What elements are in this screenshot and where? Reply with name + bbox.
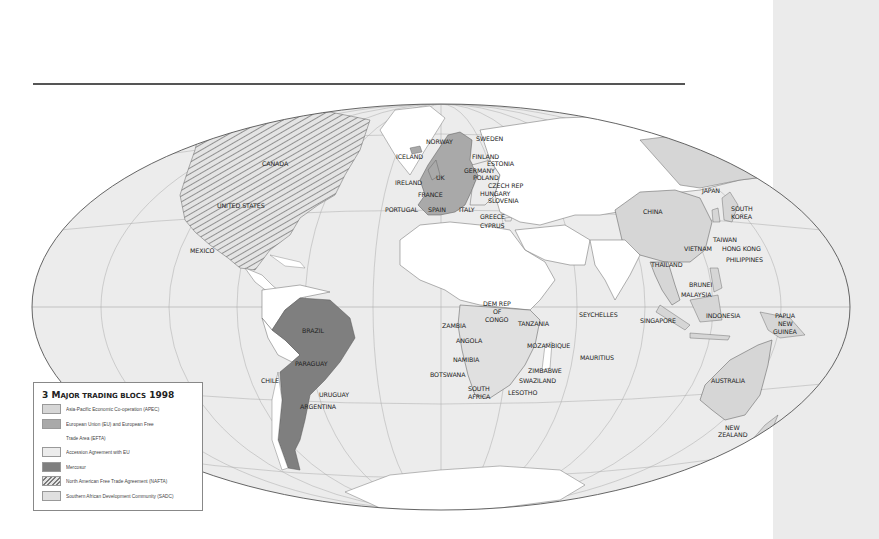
label-mozambique: MOZAMBIQUE [527, 342, 570, 349]
label-germany: GERMANY [464, 167, 495, 174]
legend-item-mercosur: Mercosur [42, 462, 197, 477]
label-south-africa-1: SOUTH [468, 385, 490, 392]
label-uruguay: URUGUAY [319, 391, 349, 398]
label-chile: CHILE [261, 377, 279, 384]
label-png-3: GUINEA [773, 328, 798, 335]
label-canada: CANADA [262, 160, 289, 167]
label-australia: AUSTRALIA [711, 377, 746, 384]
label-thailand: THAILAND [650, 261, 683, 268]
label-argentina: ARGENTINA [300, 403, 337, 410]
label-greece: GREECE [480, 213, 505, 220]
label-mauritius: MAURITIUS [580, 354, 614, 361]
legend-item-apec: Asia-Pacific Economic Co-operation (APEC… [42, 404, 197, 419]
label-japan: JAPAN [701, 187, 720, 195]
label-south-africa-2: AFRICA [468, 393, 491, 400]
label-portugal: PORTUGAL [385, 206, 419, 213]
accession-swatch [42, 447, 61, 457]
label-hungary: HUNGARY [480, 190, 511, 197]
label-swaziland: SWAZILAND [519, 377, 556, 384]
nafta-hatch-swatch [42, 476, 61, 486]
label-ireland: IRELAND [395, 179, 422, 186]
label-south-korea-2: KOREA [731, 213, 753, 220]
label-finland: FINLAND [472, 153, 499, 160]
label-nz-2: ZEALAND [718, 431, 748, 438]
legend-item-eu-efta: European Union (EU) and European Free [42, 419, 197, 434]
label-namibia: NAMIBIA [453, 356, 480, 363]
label-china: CHINA [643, 208, 663, 215]
label-italy: ITALY [459, 206, 475, 213]
label-angola: ANGOLA [456, 337, 483, 344]
label-zambia: ZAMBIA [442, 322, 467, 329]
label-drc-2: OF [493, 308, 502, 315]
label-paraguay: PARAGUAY [295, 360, 328, 367]
label-lesotho: LESOTHO [508, 389, 537, 396]
label-cyprus: CYPRUS [480, 222, 504, 229]
label-france: FRANCE [418, 191, 443, 198]
label-zimbabwe: ZIMBABWE [528, 367, 562, 374]
legend-title: 3 MAJOR TRADING BLOCS 1998 [42, 390, 197, 400]
label-iceland: ICELAND [396, 153, 423, 160]
label-hong-kong: HONG KONG [722, 245, 761, 252]
label-singapore: SINGAPORE [640, 317, 676, 324]
label-brunei: BRUNEI [689, 281, 712, 288]
label-uk: UK [436, 174, 446, 181]
label-brazil: BRAZIL [302, 327, 324, 334]
mercosur-swatch [42, 462, 61, 472]
legend-item-sadc: Southern African Development Community (… [42, 491, 197, 506]
label-botswana: BOTSWANA [430, 371, 466, 378]
label-png-2: NEW [778, 320, 793, 327]
legend-item-eu-efta-line2: Trade Area (EFTA) [66, 433, 197, 447]
label-estonia: ESTONIA [487, 160, 515, 167]
eu-efta-swatch [42, 419, 61, 429]
label-south-korea-1: SOUTH [731, 205, 753, 212]
label-png-1: PAPUA [775, 312, 796, 319]
legend-item-nafta: North American Free Trade Agreement (NAF… [42, 476, 197, 491]
label-czech-rep: CZECH REP [488, 182, 523, 189]
label-mexico: MEXICO [190, 247, 214, 254]
label-vietnam: VIETNAM [684, 245, 712, 252]
label-drc-3: CONGO [485, 316, 509, 323]
label-united-states: UNITED STATES [217, 202, 265, 209]
label-nz-1: NEW [725, 424, 740, 431]
label-malaysia: MALAYSIA [681, 291, 712, 298]
legend-item-accession: Accession Agreement with EU [42, 447, 197, 462]
map-legend: 3 MAJOR TRADING BLOCS 1998 Asia-Pacific … [33, 382, 203, 511]
label-slovenia: SLOVENIA [488, 197, 519, 204]
apec-swatch [42, 404, 61, 414]
label-philippines: PHILIPPINES [726, 256, 763, 263]
label-seychelles: SEYCHELLES [579, 311, 618, 318]
label-drc-1: DEM REP [483, 300, 511, 307]
label-spain: SPAIN [428, 206, 446, 213]
sadc-swatch [42, 491, 61, 501]
label-taiwan: TAIWAN [712, 236, 737, 243]
label-norway: NORWAY [426, 138, 453, 145]
label-indonesia: INDONESIA [706, 312, 741, 319]
label-tanzania: TANZANIA [517, 320, 550, 327]
label-poland: POLAND [473, 174, 499, 181]
label-sweden: SWEDEN [476, 135, 504, 142]
